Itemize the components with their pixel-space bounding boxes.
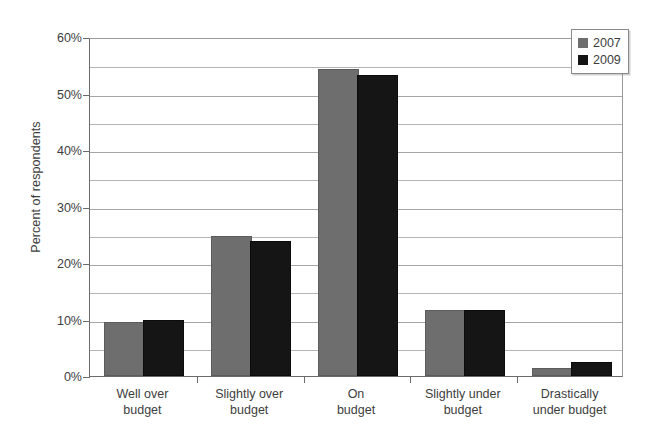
bar-2007-4 (425, 310, 466, 376)
plot-area (89, 38, 623, 377)
legend: 2007 2009 (571, 29, 629, 74)
x-axis-label-2: Slightly overbudget (196, 386, 303, 418)
bar-2009-3 (357, 75, 398, 376)
bar-2007-1 (104, 322, 145, 376)
bars-layer (90, 39, 622, 376)
y-axis-tick-label: 60% (12, 31, 82, 45)
x-axis-label-5: Drasticallyunder budget (516, 386, 623, 418)
y-axis-tick-mark (83, 377, 90, 378)
y-axis-tick-label: 30% (12, 201, 82, 215)
y-axis-title: Percent of respondents (29, 67, 43, 307)
y-axis-tick-label: 10% (12, 314, 82, 328)
bar-2009-2 (250, 241, 291, 376)
x-axis-label-line: Slightly over (196, 386, 303, 402)
x-axis-separator (197, 376, 198, 383)
y-axis-tick-label: 20% (12, 257, 82, 271)
x-axis-separator (304, 376, 305, 383)
y-axis-tick-label: 50% (12, 88, 82, 102)
legend-label-2007: 2007 (593, 36, 621, 50)
x-axis-label-line: budget (89, 402, 196, 418)
x-axis-label-line: budget (303, 402, 410, 418)
x-axis-label-line: Well over (89, 386, 196, 402)
bar-2007-5 (532, 368, 573, 376)
bar-2007-3 (318, 69, 359, 376)
x-axis-label-line: Drastically (516, 386, 623, 402)
x-axis-label-line: budget (409, 402, 516, 418)
x-axis-label-line: under budget (516, 402, 623, 418)
legend-swatch-2009-icon (578, 55, 588, 65)
bar-2009-5 (571, 362, 612, 376)
x-axis-label-4: Slightly underbudget (409, 386, 516, 418)
bar-2009-1 (143, 320, 184, 376)
legend-item-2009: 2009 (578, 51, 621, 68)
legend-item-2007: 2007 (578, 34, 621, 51)
bar-chart: Percent of respondents 0%10%20%30%40%50%… (0, 0, 657, 439)
bar-2009-4 (464, 310, 505, 376)
x-axis-label-line: On (303, 386, 410, 402)
x-axis-label-line: Slightly under (409, 386, 516, 402)
y-axis-tick-label: 0% (12, 370, 82, 384)
x-axis-label-line: budget (196, 402, 303, 418)
x-axis-separator (517, 376, 518, 383)
legend-swatch-2007-icon (578, 38, 588, 48)
x-axis-label-1: Well overbudget (89, 386, 196, 418)
x-axis-separator (410, 376, 411, 383)
x-axis-label-3: Onbudget (303, 386, 410, 418)
bar-2007-2 (211, 236, 252, 376)
y-axis-tick-label: 40% (12, 144, 82, 158)
legend-label-2009: 2009 (593, 53, 621, 67)
